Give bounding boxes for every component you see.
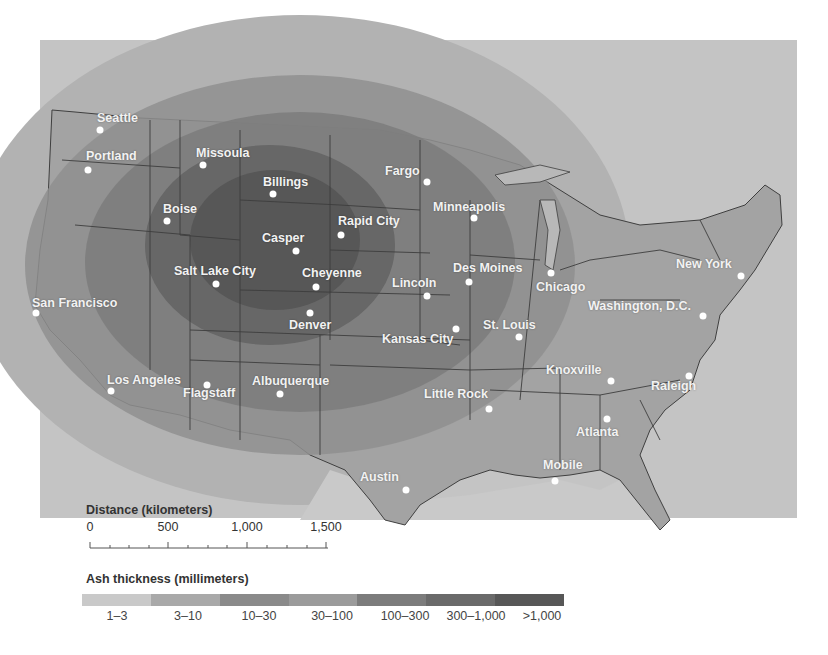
city-dot bbox=[270, 191, 277, 198]
city-label: Rapid City bbox=[338, 214, 400, 228]
city-label: St. Louis bbox=[483, 318, 536, 332]
city-dot bbox=[338, 232, 345, 239]
legend-label: >1,000 bbox=[523, 609, 562, 623]
legend-label: 3–10 bbox=[174, 609, 202, 623]
city-label: New York bbox=[676, 257, 732, 271]
city-label: Los Angeles bbox=[107, 373, 181, 387]
city-label: Little Rock bbox=[424, 387, 488, 401]
city-dot bbox=[548, 270, 555, 277]
city-dot bbox=[313, 284, 320, 291]
scale-title: Distance (kilometers) bbox=[86, 503, 212, 517]
city-dot bbox=[403, 487, 410, 494]
legend-label: 10–30 bbox=[242, 609, 277, 623]
city-label: Casper bbox=[262, 231, 304, 245]
city-label: Austin bbox=[360, 470, 399, 484]
legend-swatch-over-1000 bbox=[495, 594, 564, 606]
legend-swatch-1-3 bbox=[82, 594, 151, 606]
city-dot bbox=[466, 279, 473, 286]
city-label: Knoxville bbox=[546, 363, 602, 377]
city-dot bbox=[424, 293, 431, 300]
city-label: Salt Lake City bbox=[174, 264, 256, 278]
city-label: Kansas City bbox=[382, 332, 454, 346]
city-dot bbox=[213, 281, 220, 288]
city-dot bbox=[552, 478, 559, 485]
scale-bar-graphic bbox=[90, 542, 328, 548]
city-label: Raleigh bbox=[651, 379, 696, 393]
city-label: Atlanta bbox=[576, 425, 618, 439]
city-label: Boise bbox=[163, 202, 197, 216]
legend-swatch-300-1000 bbox=[426, 594, 495, 606]
city-dot bbox=[200, 162, 207, 169]
city-dot bbox=[277, 391, 284, 398]
city-dot bbox=[604, 416, 611, 423]
ash-thickness-map: Seattle Portland Missoula Billings Boise… bbox=[0, 0, 828, 655]
city-label: Albuquerque bbox=[252, 374, 329, 388]
city-label: Washington, D.C. bbox=[588, 299, 691, 313]
legend-swatch-30-100 bbox=[289, 594, 358, 606]
city-label: Billings bbox=[263, 175, 308, 189]
city-label: Des Moines bbox=[453, 261, 522, 275]
city-dot bbox=[108, 388, 115, 395]
city-label: Missoula bbox=[196, 146, 250, 160]
city-label: Fargo bbox=[385, 164, 420, 178]
legend-label: 1–3 bbox=[107, 609, 128, 623]
city-dot bbox=[608, 378, 615, 385]
city-label: Mobile bbox=[543, 458, 583, 472]
scale-tick-label: 1,000 bbox=[231, 520, 262, 534]
city-dot bbox=[293, 248, 300, 255]
city-dot bbox=[164, 218, 171, 225]
city-label: Flagstaff bbox=[183, 386, 235, 400]
city-dot bbox=[516, 334, 523, 341]
scale-tick-label: 0 bbox=[87, 520, 94, 534]
legend-swatch-10-30 bbox=[220, 594, 289, 606]
scale-tick-label: 1,500 bbox=[310, 520, 341, 534]
city-label: Chicago bbox=[536, 280, 585, 294]
legend-color-bar bbox=[82, 594, 564, 606]
legend-label: 30–100 bbox=[311, 609, 353, 623]
city-label: Lincoln bbox=[392, 276, 436, 290]
city-dot bbox=[471, 215, 478, 222]
city-dot bbox=[486, 406, 493, 413]
city-dot bbox=[700, 313, 707, 320]
map-canvas bbox=[0, 0, 828, 655]
city-dot bbox=[307, 310, 314, 317]
city-dot bbox=[33, 310, 40, 317]
legend-swatch-100-300 bbox=[357, 594, 426, 606]
scale-tick-label: 500 bbox=[158, 520, 179, 534]
city-label: Minneapolis bbox=[433, 200, 505, 214]
city-dot bbox=[738, 273, 745, 280]
city-label: Denver bbox=[289, 318, 331, 332]
city-label: Cheyenne bbox=[302, 266, 362, 280]
city-dot bbox=[85, 167, 92, 174]
city-dot bbox=[97, 127, 104, 134]
city-label: San Francisco bbox=[32, 296, 117, 310]
legend-title: Ash thickness (millimeters) bbox=[86, 572, 249, 586]
city-label: Portland bbox=[86, 149, 137, 163]
city-dot bbox=[424, 179, 431, 186]
legend-label: 300–1,000 bbox=[446, 609, 505, 623]
legend-swatch-3-10 bbox=[151, 594, 220, 606]
city-label: Seattle bbox=[97, 111, 138, 125]
legend-label: 100–300 bbox=[381, 609, 430, 623]
